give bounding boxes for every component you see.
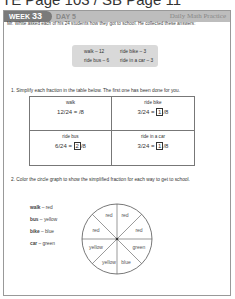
legend-item: car – green [30, 241, 57, 253]
table-cell: walk12/24 = /8 [30, 97, 112, 131]
svg-text:yellow: yellow [89, 244, 103, 250]
data-box: walk – 12 ride bike – 3 ride bus – 6 rid… [72, 45, 158, 67]
fraction: 12/24 = /8 [30, 109, 111, 115]
svg-text:red: red [105, 212, 112, 218]
fraction-table: walk12/24 = /8 ride bike3/24 = 1/8 ride … [29, 96, 195, 166]
day-number: 5 [72, 13, 76, 20]
svg-text:red: red [92, 227, 99, 233]
svg-text:blue: blue [121, 259, 131, 265]
data-item: ride bus – 6 [84, 58, 109, 63]
legend-item: bike – blue [30, 229, 57, 241]
table-cell: ride bus6/24 = 2/8 [30, 131, 112, 165]
week-label: WEEK [9, 13, 30, 20]
intro-text: Mr. White asked each of his 24 students … [7, 20, 217, 28]
color-legend: walk – red bus – yellow bike – blue car … [30, 205, 57, 253]
legend-item: bus – yellow [30, 217, 57, 229]
table-cell: ride bike3/24 = 1/8 [112, 97, 194, 131]
svg-text:red: red [135, 227, 142, 233]
circle-graph: redred redred yellowgreen yellowblue [81, 203, 153, 275]
data-item: walk – 12 [84, 49, 104, 54]
svg-text:green: green [133, 244, 146, 250]
legend-item: walk – red [30, 205, 57, 217]
question-2: 2. Color the circle graph to show the si… [11, 176, 201, 184]
table-cell: ride in a car3/24 = 1/8 [112, 131, 194, 165]
svg-text:yellow: yellow [102, 259, 116, 265]
page-header: TE Page 103 / SB Page 11 [2, 0, 181, 8]
fraction: 6/24 = 2/8 [30, 143, 111, 149]
question-1: 1. Simplify each fraction in the table b… [11, 88, 180, 93]
fraction: 3/24 = 1/8 [112, 143, 194, 149]
data-item: ride bike – 3 [120, 49, 146, 54]
svg-text:red: red [121, 212, 128, 218]
day-text: DAY [56, 13, 70, 20]
cell-label: ride bus [30, 134, 111, 139]
cell-label: ride bike [112, 100, 194, 105]
cell-label: ride in a car [112, 134, 194, 139]
fraction: 3/24 = 1/8 [112, 109, 194, 115]
cell-label: walk [30, 100, 111, 105]
data-item: ride in a car – 3 [120, 58, 153, 63]
